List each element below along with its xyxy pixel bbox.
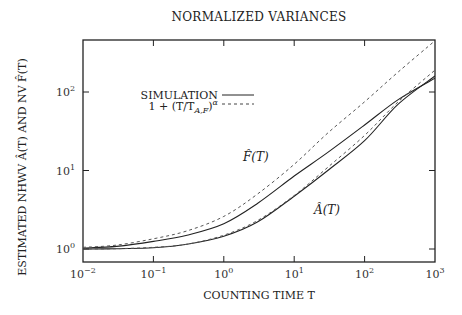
plot-area: 10−210−1100101102103100101102 SIMULATION…: [0, 0, 462, 315]
x-tick-label: 100: [214, 266, 233, 281]
x-tick-label: 10−2: [70, 266, 96, 281]
series-line-1: [83, 41, 435, 248]
curve-label-F: F̂(T): [242, 149, 269, 164]
legend: SIMULATION 1 + (T/TA,F)α: [141, 89, 254, 115]
data-curves: [83, 41, 435, 249]
x-tick-label: 103: [425, 266, 444, 281]
y-tick-label: 100: [56, 241, 75, 256]
legend-label-theory: 1 + (T/TA,F)α: [149, 98, 219, 115]
y-tick-label: 101: [56, 163, 75, 178]
y-tick-label: 102: [56, 84, 75, 99]
x-tick-label: 102: [355, 266, 374, 281]
curve-label-A: Â(T): [313, 202, 340, 217]
x-tick-label: 101: [285, 266, 304, 281]
x-tick-label: 10−1: [141, 266, 167, 281]
